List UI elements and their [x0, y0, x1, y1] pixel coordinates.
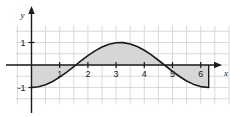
y-tick-label: -1	[17, 83, 25, 93]
x-tick-label: 1	[57, 69, 62, 79]
function-plot: 1234561-1 y x	[0, 0, 230, 117]
x-tick-label: 6	[198, 69, 203, 79]
x-tick-label: 2	[85, 69, 90, 79]
x-tick-label: 4	[142, 69, 147, 79]
y-tick-label: 1	[20, 38, 25, 48]
chart-figure: 1234561-1 y x	[0, 0, 230, 117]
x-axis-label: x	[223, 68, 228, 78]
x-tick-label: 3	[114, 69, 119, 79]
y-axis-label: y	[20, 10, 25, 20]
x-tick-label: 5	[170, 69, 175, 79]
